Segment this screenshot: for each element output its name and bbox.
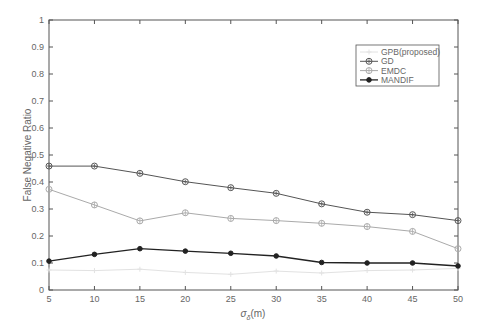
series-line [49, 268, 458, 274]
plus-marker-icon [92, 268, 97, 273]
x-tick-label: 40 [362, 294, 372, 304]
dot-marker-icon [410, 261, 415, 266]
series-gd [46, 163, 461, 224]
cross-marker-icon [229, 186, 233, 190]
y-tick-label: 0.8 [31, 69, 44, 79]
cross-marker-icon [411, 213, 415, 217]
plus-marker-icon [410, 268, 415, 273]
series-line [49, 249, 458, 266]
x-tick-label: 35 [317, 294, 327, 304]
legend: GPB(proposed)GDEMDCMANDIF [356, 45, 440, 86]
series-emdc [46, 186, 461, 251]
y-tick-label: 0.7 [31, 96, 44, 106]
y-axis-label: False Negative Ratio [22, 108, 33, 201]
cross-marker-icon [47, 164, 51, 168]
plus-marker-icon [365, 268, 370, 273]
series-line [49, 189, 458, 248]
y-tick-label: 0 [39, 285, 44, 295]
legend-label: MANDIF [381, 75, 414, 85]
x-tick-label: 5 [46, 294, 51, 304]
cross-marker-icon [274, 191, 278, 195]
dot-marker-icon [92, 252, 97, 257]
cross-marker-icon [92, 164, 96, 168]
plus-marker-icon [137, 267, 142, 272]
x-tick-label: 50 [453, 294, 463, 304]
y-tick-label: 0.4 [31, 177, 44, 187]
y-tick-label: 0.5 [31, 150, 44, 160]
dot-marker-icon [319, 260, 324, 265]
x-tick-label: 10 [89, 294, 99, 304]
series-gpb-proposed [47, 266, 461, 277]
plus-marker-icon [319, 270, 324, 275]
cross-marker-icon [365, 210, 369, 214]
plus-marker-icon [274, 269, 279, 274]
x-tick-label: 45 [408, 294, 418, 304]
cross-marker-icon [456, 219, 460, 223]
x-tick-label: 15 [135, 294, 145, 304]
x-tick-label: 20 [180, 294, 190, 304]
x-axis-label: σδ(m) [241, 308, 266, 321]
dot-marker-icon [274, 254, 279, 259]
dot-marker-icon [138, 246, 143, 251]
y-tick-label: 1 [39, 15, 44, 25]
cross-marker-icon [138, 171, 142, 175]
x-tick-label: 25 [226, 294, 236, 304]
series-layer [46, 163, 461, 277]
dot-marker-icon [365, 261, 370, 266]
cross-marker-icon [183, 180, 187, 184]
y-tick-label: 0.9 [31, 42, 44, 52]
x-tick-label: 30 [271, 294, 281, 304]
dot-marker-icon [367, 78, 372, 83]
cross-marker-icon [320, 202, 324, 206]
series-line [49, 166, 458, 221]
dot-marker-icon [183, 249, 188, 254]
y-tick-label: 0.3 [31, 204, 44, 214]
series-mandif [47, 246, 461, 268]
y-tick-label: 0.6 [31, 123, 44, 133]
dot-marker-icon [47, 259, 52, 264]
line-chart: 510152025303540455000.10.20.30.40.50.60.… [0, 0, 483, 329]
x-axis-label-unit: (m) [250, 308, 265, 319]
dot-marker-icon [228, 251, 233, 256]
plus-marker-icon [228, 272, 233, 277]
plus-marker-icon [47, 268, 52, 273]
y-tick-label: 0.1 [31, 258, 44, 268]
plus-marker-icon [183, 270, 188, 275]
y-tick-label: 0.2 [31, 231, 44, 241]
dot-marker-icon [456, 264, 461, 269]
